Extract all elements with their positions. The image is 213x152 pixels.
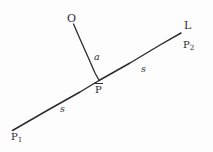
label-point-p1-subscript: 1 (18, 135, 23, 144)
label-distance-s-right: s (141, 64, 146, 74)
geometry-diagram: O L P2 P1 P a s s (0, 0, 213, 152)
label-distance-a: a (94, 52, 100, 62)
label-point-p1: P1 (11, 132, 22, 143)
label-point-p1-base: P (11, 131, 18, 142)
label-point-p2-subscript: 2 (190, 43, 195, 52)
label-distance-s-left: s (60, 104, 65, 114)
label-line-l: L (184, 20, 191, 31)
label-point-p2-base: P (183, 39, 190, 50)
diagram-canvas (0, 0, 213, 152)
label-point-p2: P2 (183, 40, 194, 51)
label-point-p-bar-text: P (95, 85, 102, 95)
label-point-p-bar: P (95, 85, 102, 95)
label-point-o: O (67, 13, 76, 24)
